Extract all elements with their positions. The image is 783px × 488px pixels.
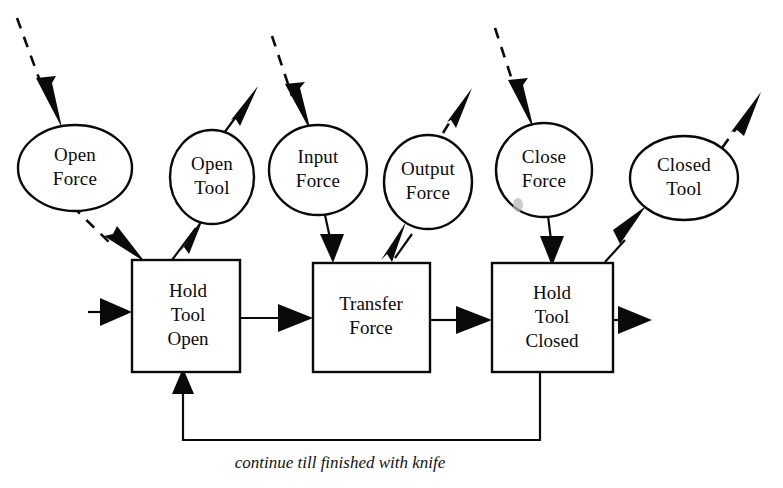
node-input-force[interactable]: Input Force — [269, 125, 367, 215]
edge-transfer-force-to-output-force — [381, 222, 412, 262]
node-hold-tool-closed-line2: Tool — [535, 306, 570, 327]
node-input-force-line2: Force — [296, 170, 340, 191]
node-hold-tool-open-line1: Hold — [169, 280, 208, 301]
edge-output-force-output — [443, 88, 472, 133]
node-closed-tool-line1: Closed — [657, 154, 711, 175]
node-output-force-line2: Force — [406, 182, 450, 203]
edge-hold-tool-closed-output — [613, 306, 652, 334]
edge-transfer-force-to-hold-tool-closed — [430, 306, 492, 334]
node-hold-tool-closed-line1: Hold — [533, 282, 572, 303]
node-close-force-line2: Force — [522, 170, 566, 191]
ink-smudge — [513, 198, 523, 212]
edge-open-force-to-hold-tool-open — [72, 206, 145, 262]
node-closed-tool-line2: Tool — [666, 178, 701, 199]
edge-external-input-hold-tool-open — [88, 298, 132, 326]
node-closed-tool[interactable]: Closed Tool — [630, 136, 738, 220]
node-hold-tool-open-line2: Tool — [171, 304, 206, 325]
node-transfer-force-line1: Transfer — [339, 293, 403, 314]
node-hold-tool-closed[interactable]: Hold Tool Closed — [492, 263, 613, 372]
edge-closed-tool-output — [722, 92, 761, 148]
diagram-canvas: Open Force Open Tool Input Force Output … — [0, 0, 783, 488]
node-hold-tool-closed-line3: Closed — [526, 330, 579, 351]
edge-feedback-loop — [172, 368, 540, 440]
edge-open-tool-output — [224, 86, 258, 133]
node-hold-tool-open-line3: Open — [167, 328, 209, 349]
edge-external-to-open-force — [17, 18, 62, 128]
edge-hold-tool-closed-to-closed-tool — [605, 206, 646, 262]
diagram-svg: Open Force Open Tool Input Force Output … — [0, 0, 783, 488]
node-open-force-line1: Open — [54, 144, 96, 165]
node-output-force[interactable]: Output Force — [384, 135, 472, 229]
node-transfer-force-line2: Force — [349, 317, 392, 338]
node-close-force[interactable]: Close Force — [496, 123, 592, 217]
edge-external-to-input-force — [272, 36, 311, 132]
node-transfer-force[interactable]: Transfer Force — [313, 263, 430, 372]
node-open-force[interactable]: Open Force — [18, 125, 132, 211]
edge-external-to-close-force — [495, 28, 534, 130]
node-open-tool[interactable]: Open Tool — [170, 130, 254, 224]
node-hold-tool-open[interactable]: Hold Tool Open — [132, 260, 240, 372]
node-close-force-line1: Close — [522, 146, 566, 167]
edge-input-force-to-transfer-force — [320, 215, 344, 263]
node-input-force-line1: Input — [297, 146, 339, 167]
node-open-tool-line1: Open — [191, 153, 233, 174]
node-open-force-line2: Force — [53, 168, 97, 189]
diagram-caption: continue till finished with knife — [235, 453, 446, 472]
edge-hold-tool-open-to-transfer-force — [240, 304, 313, 332]
node-output-force-line1: Output — [401, 158, 456, 179]
edge-close-force-to-hold-tool-closed — [540, 216, 564, 266]
node-open-tool-line2: Tool — [194, 177, 229, 198]
